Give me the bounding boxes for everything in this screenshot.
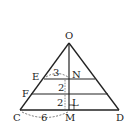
measure-gap-2: 2 bbox=[57, 97, 63, 108]
label-E: E bbox=[32, 71, 39, 82]
label-F: F bbox=[22, 88, 29, 99]
label-N: N bbox=[72, 69, 81, 80]
measure-CM: 6 bbox=[41, 112, 47, 123]
cone-cross-section-diagram: O E N F L C M D 3 2 2 6 bbox=[0, 0, 127, 136]
label-O: O bbox=[65, 30, 73, 41]
measure-gap-1: 2 bbox=[58, 82, 64, 93]
label-L: L bbox=[72, 97, 79, 108]
label-M: M bbox=[65, 112, 75, 123]
label-C: C bbox=[13, 112, 21, 123]
label-D: D bbox=[116, 112, 124, 123]
measure-EN: 3 bbox=[53, 67, 59, 78]
